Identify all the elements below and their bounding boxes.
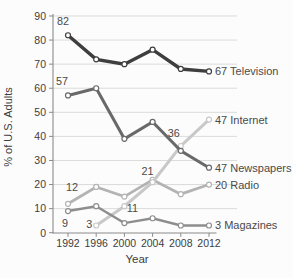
y-axis-title: % of U.S. Adults [2,87,14,167]
marker-newspapers-1992 [66,93,71,98]
marker-radio-2012 [207,182,212,187]
x-tick-label-2000: 2000 [113,237,137,249]
marker-magazines-1992 [66,209,71,214]
annotation-20-radio: 20 Radio [215,179,259,191]
marker-radio-2008 [178,192,183,197]
marker-newspapers-2008 [178,148,183,153]
marker-magazines-2012 [207,223,212,228]
x-tick-label-2004: 2004 [141,237,165,249]
y-tick-label-30: 30 [34,154,46,166]
y-tick-label-90: 90 [34,10,46,22]
marker-newspapers-2004 [150,119,155,124]
x-axis-title: Year [125,253,148,265]
marker-radio-1996 [94,184,99,189]
y-tick-label-60: 60 [34,82,46,94]
marker-newspapers-2012 [207,165,212,170]
marker-newspapers-1996 [94,86,99,91]
annotation-67-television: 67 Television [215,65,278,77]
marker-internet-1996 [94,223,99,228]
x-tick-label-2008: 2008 [169,237,193,249]
annotation-11: 11 [127,202,138,214]
annotation-3-magazines: 3 Magazines [215,219,278,231]
annotation-36: 36 [168,127,180,139]
annotation-47-internet: 47 Internet [215,114,268,126]
x-tick-label-1996: 1996 [85,237,109,249]
marker-television-1992 [66,33,71,38]
marker-newspapers-2000 [122,136,127,141]
marker-magazines-1996 [94,204,99,209]
marker-internet-2012 [207,117,212,122]
x-tick-label-2012: 2012 [197,237,221,249]
annotation-47-newspapers: 47 Newspapers [215,162,292,174]
marker-magazines-2008 [178,223,183,228]
marker-television-1996 [94,57,99,62]
marker-television-2012 [207,69,212,74]
y-tick-label-20: 20 [34,178,46,190]
annotation-12: 12 [66,181,78,193]
annotation-3: 3 [86,218,92,230]
y-tick-label-0: 0 [40,227,46,239]
marker-internet-2004 [150,180,155,185]
y-tick-label-40: 40 [34,130,46,142]
line-chart-canvas: 0102030405060708090199219962000200420082… [0,0,293,278]
news-source-trend-chart: 0102030405060708090199219962000200420082… [0,0,293,278]
y-tick-label-10: 10 [34,202,46,214]
y-tick-label-50: 50 [34,106,46,118]
marker-television-2000 [122,62,127,67]
y-tick-label-70: 70 [34,58,46,70]
marker-radio-2000 [122,194,127,199]
marker-television-2004 [150,47,155,52]
marker-television-2008 [178,66,183,71]
marker-magazines-2000 [122,221,127,226]
series-line-television [68,35,209,71]
series-line-radio [68,180,209,204]
marker-magazines-2004 [150,216,155,221]
series-line-newspapers [68,88,209,167]
annotation-9: 9 [62,217,68,229]
annotation-82: 82 [57,15,69,27]
marker-radio-1992 [66,201,71,206]
x-tick-label-1992: 1992 [56,237,80,249]
y-tick-label-80: 80 [34,34,46,46]
annotation-21: 21 [142,165,154,177]
annotation-57: 57 [56,75,68,87]
